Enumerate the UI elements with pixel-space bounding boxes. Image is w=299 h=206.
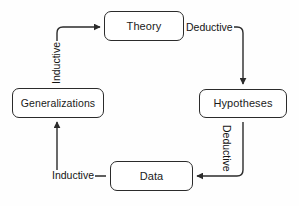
edge-label-theory-to-hypotheses: Deductive: [185, 22, 234, 33]
connector-hypotheses-to-data: [197, 122, 243, 176]
node-theory-label: Theory: [127, 21, 162, 32]
node-generalizations[interactable]: Generalizations: [12, 88, 104, 118]
connector-theory-to-hypotheses: [188, 27, 243, 84]
science-cycle-diagram: Theory Hypotheses Data Generalizations D…: [0, 0, 299, 206]
edge-label-data-to-generalizations: Inductive: [51, 170, 95, 181]
connector-data-to-generalizations: [57, 122, 106, 176]
connector-generalizations-to-theory: [57, 27, 100, 84]
node-hypotheses-label: Hypotheses: [213, 98, 272, 109]
node-data[interactable]: Data: [110, 161, 193, 191]
node-data-label: Data: [140, 171, 164, 182]
node-theory[interactable]: Theory: [104, 11, 184, 41]
node-generalizations-label: Generalizations: [21, 98, 95, 109]
node-hypotheses[interactable]: Hypotheses: [199, 89, 287, 118]
edge-label-generalizations-to-theory: Inductive: [51, 41, 62, 85]
edge-label-hypotheses-to-data: Deductive: [222, 124, 233, 173]
